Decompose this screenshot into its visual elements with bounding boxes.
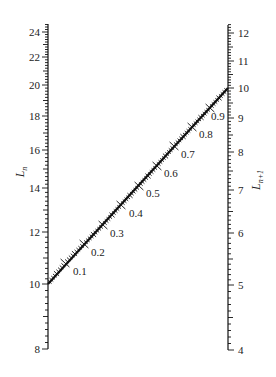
nomogram: 24222018161412108 121110987654 0.10.20.3… xyxy=(0,0,276,377)
tick-label: 8 xyxy=(35,343,41,355)
diagonal-tick-label: 0.8 xyxy=(199,128,213,140)
tick-label: 20 xyxy=(29,79,41,91)
tick-label: 9 xyxy=(238,112,244,124)
tick-label: 18 xyxy=(29,110,41,122)
diagonal-tick-label: 0.6 xyxy=(164,167,178,179)
tick-label: 8 xyxy=(238,146,244,158)
tick-label: 12 xyxy=(238,27,249,39)
diagonal-scale: 0.10.20.30.40.50.60.70.80.9 xyxy=(48,88,228,284)
diagonal-tick-label: 0.5 xyxy=(146,187,160,199)
right-axis-ln1: 121110987654 xyxy=(228,25,250,356)
right-axis-label: Ln+1 xyxy=(249,170,265,191)
tick-label: 7 xyxy=(238,184,244,196)
diagonal-tick-label: 0.7 xyxy=(181,148,195,160)
diagonal-tick-label: 0.2 xyxy=(91,246,105,258)
diagonal-tick-label: 0.4 xyxy=(129,207,143,219)
tick-label: 5 xyxy=(238,279,244,291)
diagonal-tick-label: 0.3 xyxy=(110,227,124,239)
left-axis-label: Ln xyxy=(13,167,29,179)
tick-label: 10 xyxy=(29,278,41,290)
tick-label: 14 xyxy=(29,182,41,194)
diagonal-tick-label: 0.9 xyxy=(211,110,225,122)
tick-label: 22 xyxy=(29,51,40,63)
left-axis-ln: 24222018161412108 xyxy=(29,24,48,355)
tick-label: 10 xyxy=(238,82,250,94)
tick-label: 11 xyxy=(238,55,249,67)
tick-label: 12 xyxy=(29,226,40,238)
tick-label: 16 xyxy=(29,144,41,156)
tick-label: 6 xyxy=(238,227,244,239)
tick-label: 24 xyxy=(29,26,41,38)
diagonal-tick-label: 0.1 xyxy=(73,265,87,277)
tick-label: 4 xyxy=(238,344,244,356)
